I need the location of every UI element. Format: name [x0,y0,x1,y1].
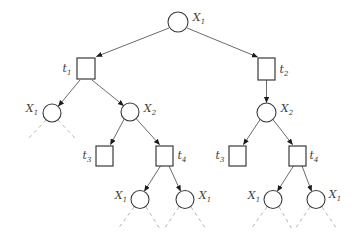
edge-t1-x1a [59,80,81,106]
node-x1e-circle [307,191,325,209]
label-sub: 2 [289,109,293,117]
label-sub: 2 [152,109,156,117]
label-sub: 4 [314,156,318,164]
dashed-branch-x1d-right [279,207,292,229]
node-root-label: X1 [193,12,205,26]
node-x1c-label: X1 [199,190,211,204]
dashed-branch-x1c-right [191,207,206,229]
edge-t1-x2a [92,80,124,106]
node-t2-label: t2 [280,64,289,78]
dashed-branch-x1a-left [27,120,46,140]
edge-x2b-t3b [244,119,261,145]
node-t1-label: t1 [63,63,72,77]
node-x1e-label: X1 [329,189,341,203]
label-sub: 1 [337,195,341,203]
node-t4b-label: t4 [310,150,319,164]
node-x1d-label: X1 [248,190,260,204]
node-t3b-square [229,146,246,166]
node-x1a-label: X1 [26,103,38,117]
edge-t4a-x1b [145,166,161,191]
node-x2a-circle [121,103,139,121]
label-sub: 4 [182,156,186,164]
edge-x2b-t4b [273,119,293,145]
label-base: X [26,102,34,115]
edge-root-t1 [97,28,170,57]
node-x2b-label: X2 [281,103,293,117]
edge-t4b-x1d [278,166,294,191]
node-t2-square [258,58,275,80]
dashed-branch-x1e-left [295,207,310,229]
dashed-branch-x1c-left [164,207,179,229]
node-t1-square [77,58,95,79]
node-t4a-label: t4 [178,150,187,164]
dashed-branch-x1d-left [251,207,267,229]
label-sub: 1 [34,109,38,117]
label-sub: 1 [123,196,127,204]
label-sub: 1 [67,69,71,77]
dashed-branch-x1a-right [58,120,75,138]
label-base: X [248,189,256,202]
label-sub: 3 [220,156,224,164]
edge-root-t2 [187,28,258,57]
node-x1b-label: X1 [115,190,127,204]
label-base: X [115,189,123,202]
node-t4a-square [156,146,173,166]
label-base: X [144,102,152,115]
node-x1d-circle [264,191,282,209]
edge-t4a-x1c [169,166,181,191]
tree-diagram: X1 t1 t2 X1 X2 X2 t3 t4 t3 t4 X1 X1 X1 X… [0,0,358,237]
label-base: X [329,188,337,201]
label-sub: 3 [87,156,91,164]
node-root-circle [168,12,188,32]
label-sub: 2 [284,70,288,78]
node-x1b-circle [131,191,149,209]
node-x1a-circle [43,104,61,122]
node-x2b-circle [257,103,276,122]
node-t4b-square [289,146,306,166]
label-base: X [281,102,289,115]
label-sub: 1 [201,18,205,26]
label-sub: 1 [256,196,260,204]
dashed-branch-x1b-right [146,207,160,229]
edge-x2a-t4a [136,119,160,145]
label-base: X [193,11,201,24]
node-t3a-square [96,146,113,166]
node-t3b-label: t3 [216,150,225,164]
edge-x2a-t3a [111,119,125,145]
node-t3a-label: t3 [83,150,92,164]
label-base: X [199,189,207,202]
label-sub: 1 [207,196,211,204]
edge-t4b-x1e [302,166,312,191]
tree-diagram-canvas [0,0,358,237]
node-x1c-circle [176,191,194,209]
dashed-branch-x1b-left [118,207,134,229]
dashed-branch-x1e-right [322,207,337,229]
node-x2a-label: X2 [144,103,156,117]
